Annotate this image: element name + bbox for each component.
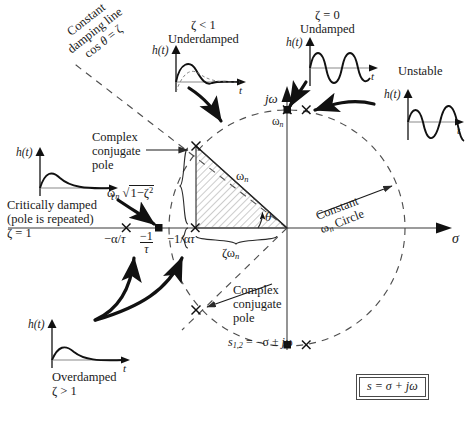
inset-unstable-plot xyxy=(404,89,465,141)
brace-damped-frequency xyxy=(180,148,188,224)
overdamped-title-2: ζ > 1 xyxy=(52,384,117,398)
cc-upper-1: Complex xyxy=(92,130,141,144)
underdamped-title-2: Underdamped xyxy=(168,32,239,46)
damping-triangle xyxy=(196,146,287,228)
inset-undamped-y-label: h(t) xyxy=(286,36,303,49)
real-axis-label: σ xyxy=(452,231,459,247)
cc-lower-2: conjugate xyxy=(233,297,282,311)
real-mark-minus-one-over-tau: −1τ xyxy=(140,230,153,255)
inset-undamped-x-label: t xyxy=(371,70,374,82)
damped-frequency-label: ωn √1−ζ2 xyxy=(107,186,154,202)
cc-lower-1: Complex xyxy=(233,283,282,297)
wn-imag-axis-label: ωn xyxy=(272,115,283,130)
formula-box: s = σ + jω xyxy=(356,374,429,400)
complex-conjugate-pole-lower-label: Complex conjugate pole xyxy=(233,283,282,325)
inset-underdamped-y-label: h(t) xyxy=(152,44,169,57)
critical-title-2: (pole is repeated) xyxy=(7,212,97,226)
inset-undamped-title: ζ = 0 Undamped xyxy=(300,8,355,36)
critical-title-3: ζ = 1 xyxy=(7,226,97,240)
real-mark-alpha-over-tau: −α/τ xyxy=(104,232,126,246)
imaginary-axis-label: jω xyxy=(265,92,278,107)
cc-lower-3: pole xyxy=(233,311,282,325)
undamped-title-2: Undamped xyxy=(300,22,355,36)
inset-underdamped-x-label: t xyxy=(239,84,242,96)
formula-text: s = σ + jω xyxy=(359,377,426,397)
inset-underdamped-plot xyxy=(172,45,247,92)
figure-canvas: jω σ Constant damping line cos θ = ζ Con… xyxy=(0,0,473,422)
inset-undamped-plot xyxy=(306,37,379,86)
inset-unstable-title: Unstable xyxy=(398,64,442,78)
pole-unstable-mirror xyxy=(302,341,311,350)
pole-equation-label: s1,2 = −σ ± jω xyxy=(228,336,293,350)
pole-critically-damped xyxy=(155,224,163,232)
complex-conjugate-pole-upper-label: Complex conjugate pole xyxy=(92,130,141,172)
inset-unstable-x-label: t xyxy=(457,124,460,136)
cc-upper-3: pole xyxy=(92,158,141,172)
underdamped-title-1: ζ < 1 xyxy=(168,18,239,32)
inset-critical-y-label: h(t) xyxy=(16,146,33,159)
inset-critical-x-label: t xyxy=(111,190,114,202)
zeta-wn-label: ζωn xyxy=(222,246,239,262)
inset-overdamped-x-label: t xyxy=(123,362,126,374)
cc-upper-2: conjugate xyxy=(92,144,141,158)
brace-zeta-wn xyxy=(196,236,277,244)
pole-unstable xyxy=(302,106,311,115)
overdamped-title-1: Overdamped xyxy=(52,370,117,384)
theta-label: θ xyxy=(265,210,271,225)
undamped-title-1: ζ = 0 xyxy=(300,8,355,22)
inset-overdamped-plot xyxy=(48,319,131,368)
inset-overdamped-y-label: h(t) xyxy=(28,318,45,331)
hypotenuse-wn-label: ωn xyxy=(236,169,248,185)
inset-underdamped-title: ζ < 1 Underdamped xyxy=(168,18,239,46)
inset-critically-damped-title: Critically damped (pole is repeated) ζ =… xyxy=(7,198,97,240)
real-mark-one-over-alpha-tau: −1/ατ xyxy=(167,232,195,246)
critical-title-1: Critically damped xyxy=(7,198,97,212)
inset-unstable-y-label: h(t) xyxy=(384,88,401,101)
pole-lower-complex xyxy=(192,306,201,315)
inset-overdamped-title: Overdamped ζ > 1 xyxy=(52,370,117,398)
unstable-title-1: Unstable xyxy=(398,64,442,78)
